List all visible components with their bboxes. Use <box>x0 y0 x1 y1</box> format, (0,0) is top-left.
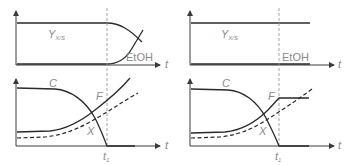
left-feed-label: F <box>96 91 103 102</box>
left-yield-curve <box>17 23 142 42</box>
right-t1-label: t1 <box>275 151 281 163</box>
left-feed-curve <box>17 78 130 132</box>
right-top-time-label: t <box>338 59 341 70</box>
right-feed-curve <box>191 98 309 133</box>
right-ethanol-label: EtOH <box>282 52 309 63</box>
right-substrate-label: C <box>222 78 230 89</box>
left-yield-label: YX/S <box>48 29 65 41</box>
right-yield-label: YX/S <box>221 29 238 41</box>
right-feed-label: F <box>268 91 275 102</box>
left-substrate-label: C <box>49 78 57 89</box>
left-bottom-time-label: t <box>165 140 168 151</box>
left-t1-label: t1 <box>103 151 109 163</box>
left-ethanol-label: EtOH <box>126 52 153 63</box>
right-bottom-time-label: t <box>338 140 341 151</box>
right-biomass-curve <box>191 89 312 138</box>
left-ethanol-curve <box>17 30 143 64</box>
right-biomass-label: X <box>259 126 266 137</box>
left-biomass-label: X <box>87 126 94 137</box>
left-top-time-label: t <box>165 59 168 70</box>
left-substrate-curve <box>17 88 135 146</box>
